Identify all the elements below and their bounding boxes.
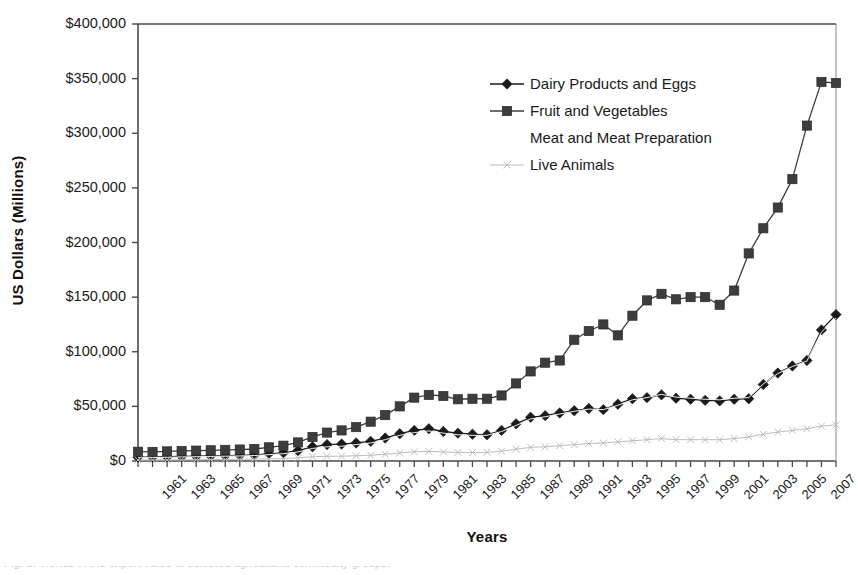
data-point [817, 77, 826, 86]
data-point [497, 391, 506, 400]
data-point [250, 444, 259, 453]
data-point [715, 300, 724, 309]
data-point [453, 428, 463, 438]
clipped-caption: Fig. 1. Trends in the export value of se… [0, 566, 848, 575]
data-point [351, 438, 361, 448]
data-point [424, 424, 434, 434]
data-point [686, 293, 695, 302]
data-point [192, 446, 201, 455]
data-point [729, 394, 739, 404]
data-point [555, 356, 564, 365]
data-point [453, 395, 462, 404]
data-point [700, 395, 710, 405]
data-point [322, 439, 332, 449]
data-point [482, 394, 491, 403]
data-point [773, 203, 782, 212]
data-point [714, 396, 724, 406]
data-point [336, 439, 346, 449]
data-point [613, 331, 622, 340]
data-point [279, 441, 288, 450]
x-axis-title: Years [466, 528, 507, 545]
data-point [831, 78, 840, 87]
data-point [671, 393, 681, 403]
data-point [439, 391, 448, 400]
data-point [410, 393, 419, 402]
data-point [759, 224, 768, 233]
data-point [468, 394, 477, 403]
data-point [744, 249, 753, 258]
data-point [381, 411, 390, 420]
data-point [221, 445, 230, 454]
data-point [730, 286, 739, 295]
data-point [352, 423, 361, 432]
data-point [599, 320, 608, 329]
data-point [526, 367, 535, 376]
data-point [570, 335, 579, 344]
data-point [148, 447, 157, 456]
data-point [628, 311, 637, 320]
data-point [657, 289, 666, 298]
data-point [642, 296, 651, 305]
data-point [424, 390, 433, 399]
data-point [307, 442, 317, 452]
data-point [685, 394, 695, 404]
data-point [511, 379, 520, 388]
data-point [177, 446, 186, 455]
data-point [235, 445, 244, 454]
data-point [541, 358, 550, 367]
data-point [395, 402, 404, 411]
caption-text: Fig. 1. Trends in the export value of se… [4, 566, 390, 569]
data-point [627, 394, 637, 404]
data-point [787, 361, 797, 371]
data-point [584, 403, 594, 413]
data-point [701, 293, 710, 302]
data-point [366, 417, 375, 426]
data-point [162, 447, 171, 456]
data-point [438, 426, 448, 436]
legend-marker-1 [502, 106, 511, 115]
data-point [308, 432, 317, 441]
data-point [671, 295, 680, 304]
data-point [802, 121, 811, 130]
x-axis-title-wrap: Years [138, 528, 836, 546]
data-point [788, 175, 797, 184]
data-point [380, 433, 390, 443]
data-point [365, 436, 375, 446]
y-axis-title: US Dollars (Millions) [9, 155, 26, 305]
data-point [337, 426, 346, 435]
data-point [395, 428, 405, 438]
data-point [293, 438, 302, 447]
data-point [584, 326, 593, 335]
data-point [264, 443, 273, 452]
y-axis-title-wrap: US Dollars (Millions) [0, 0, 34, 461]
data-point [322, 428, 331, 437]
data-point [206, 446, 215, 455]
data-point [133, 447, 142, 456]
data-point [467, 429, 477, 439]
legend-marker-0 [502, 79, 512, 89]
data-point [409, 425, 419, 435]
